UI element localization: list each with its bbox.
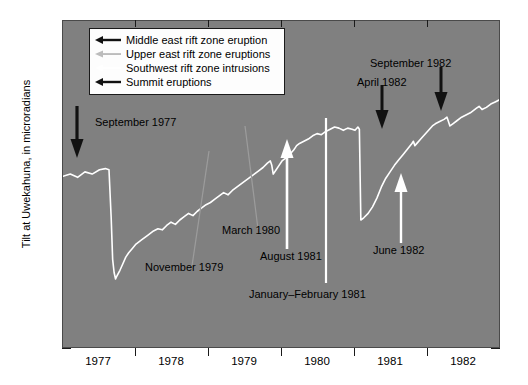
x-axis-tick-top [427,20,428,27]
legend-item-southwest-rift: Southwest rift zone intrusions [95,61,278,75]
legend-label: Summit eruptions [126,76,212,88]
legend-arrow-left-icon [95,62,121,74]
annotation-label-september-1982: September 1982 [370,57,451,69]
march-1980-leader [245,126,258,229]
x-axis-tick-label: 1981 [355,355,425,367]
x-axis-tick-label: 1980 [282,355,352,367]
august-1981-arrow [281,139,294,249]
y-axis-title: Tilt at Uwekahuna, in microradians [20,54,32,274]
legend-arrow-left-icon [95,76,121,88]
annotation-label-september-1977: September 1977 [95,116,176,128]
annotation-label-august-1981: August 1981 [260,250,322,262]
legend: Middle east rift zone eruption Upper eas… [89,28,285,95]
legend-arrow-left-icon [95,48,121,60]
x-axis-tick-top [135,20,136,27]
september-1977-arrow [71,106,84,158]
june-1982-arrow [395,173,408,243]
legend-item-upper-east-rift: Upper east rift zone eruptions [95,47,278,61]
x-axis-tick-label: 1977 [63,355,133,367]
x-axis-tick-label: 1979 [209,355,279,367]
annotation-label-april-1982: April 1982 [357,76,407,88]
plot-area: Middle east rift zone eruption Upper eas… [62,20,500,348]
x-axis-tick-top [281,20,282,27]
y-axis-major-tick [62,348,71,349]
legend-item-middle-east-rift: Middle east rift zone eruption [95,33,278,47]
x-axis-tick-label: 1978 [136,355,206,367]
annotation-label-january-february-1981: January–February 1981 [249,288,366,300]
annotation-label-november-1979: November 1979 [145,261,223,273]
legend-label: Southwest rift zone intrusions [126,62,270,74]
annotation-label-march-1980: March 1980 [222,224,280,236]
annotation-label-june-1982: June 1982 [373,244,424,256]
legend-arrow-left-icon [95,34,121,46]
legend-label: Upper east rift zone eruptions [126,48,270,60]
tilt-time-series-figure: Tilt at Uwekahuna, in microradians 200 1… [0,0,528,385]
september-1982-arrow [435,67,448,111]
x-axis-tick-label: 1982 [428,355,498,367]
november-1979-leader [192,151,209,266]
legend-item-summit-eruptions: Summit eruptions [95,75,278,89]
y-axis-major-tick-right [491,348,500,349]
legend-label: Middle east rift zone eruption [126,34,267,46]
april-1982-arrow [376,85,389,129]
x-axis-tick-top [208,20,209,27]
x-axis-tick-top [354,20,355,27]
